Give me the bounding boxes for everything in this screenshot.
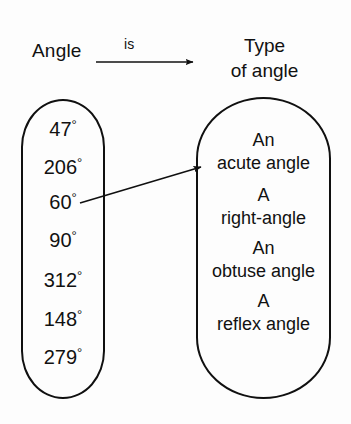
angle-type-item[interactable]: Aright-angle [192,184,335,230]
angle-list: 47°206°60°90°312°148°279° [21,99,105,399]
angle-item[interactable]: 279° [21,345,105,369]
angle-item[interactable]: 206° [21,155,105,179]
degree-symbol: ° [77,307,82,322]
codomain-label-line2: of angle [198,58,331,83]
angle-type-line1: A [192,290,335,313]
angle-type-item[interactable]: Areflex angle [192,290,335,336]
angle-type-list: Anacute angleAright-angleAnobtuse angleA… [196,97,331,399]
codomain-label-line1: Type [198,33,331,58]
angle-item[interactable]: 90° [21,228,105,252]
angle-type-line1: An [192,237,335,260]
angle-value: 148 [44,308,77,330]
degree-symbol: ° [72,228,77,243]
degree-symbol: ° [77,155,82,170]
domain-label: Angle [32,40,82,62]
angle-item[interactable]: 148° [21,307,105,331]
degree-symbol: ° [72,117,77,132]
angle-value: 206 [44,156,77,178]
angle-type-line2: right-angle [192,207,335,230]
angle-type-line1: A [192,184,335,207]
angle-value: 47 [49,118,71,140]
angle-type-line2: acute angle [192,152,335,175]
angle-value: 60 [49,191,71,213]
angle-value: 90 [49,229,71,251]
degree-symbol: ° [77,345,82,360]
angle-item[interactable]: 47° [21,117,105,141]
angle-type-line1: An [192,129,335,152]
diagram-canvas: Angle is Type of angle 47°206°60°90°312°… [0,0,351,424]
angle-type-item[interactable]: Anacute angle [192,129,335,175]
angle-type-line2: obtuse angle [192,260,335,283]
angle-item[interactable]: 60° [21,190,105,214]
angle-item[interactable]: 312° [21,268,105,292]
degree-symbol: ° [77,268,82,283]
angle-value: 312 [44,269,77,291]
angle-value: 279 [44,346,77,368]
degree-symbol: ° [72,190,77,205]
codomain-label: Type of angle [198,33,331,83]
angle-type-line2: reflex angle [192,313,335,336]
relation-label: is [124,36,135,52]
angle-type-item[interactable]: Anobtuse angle [192,237,335,283]
